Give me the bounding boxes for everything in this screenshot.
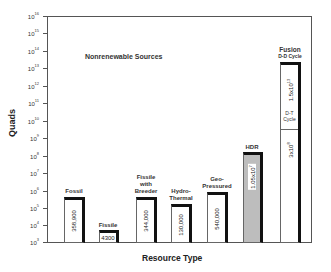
x-axis-label: Resource Type	[142, 253, 202, 263]
category-label-hdr: HDR	[246, 144, 259, 151]
bar-value: 130,000	[178, 214, 184, 236]
ytick: 1013	[0, 68, 47, 78]
bar-value: 1.05x107	[248, 164, 256, 190]
bar-value-dd: 1.5x1013	[286, 79, 294, 101]
ytick: 105	[0, 208, 47, 218]
bar-hydrothermal: 130,000	[171, 204, 192, 243]
ytick: 1016	[0, 16, 47, 26]
ytick: 1012	[0, 86, 47, 96]
category-label-fusion: FusionD-D Cycle	[278, 46, 302, 60]
bar-value: 4300	[101, 235, 114, 241]
category-label-breeder: FissilewithBreeder	[135, 174, 158, 195]
bar-fossil: 358,900	[64, 197, 85, 243]
ytick: 107	[0, 173, 47, 183]
bar-value: 344,000	[143, 210, 149, 232]
bar-fissile: 4300	[99, 230, 119, 243]
ytick: 106	[0, 191, 47, 201]
category-label-hydrothermal: Hydro-Thermal	[169, 188, 192, 202]
bar-value-dt: 3x108	[286, 142, 294, 157]
bar-geopressured: 540,000	[207, 192, 228, 243]
bar-value: 358,900	[71, 210, 77, 232]
ytick: 1015	[0, 33, 47, 43]
bar-value: 540,000	[214, 208, 220, 230]
fusion-divider	[281, 129, 298, 130]
fusion-dt-label: D-TCycle	[281, 110, 298, 122]
ytick: 103	[0, 242, 47, 252]
ytick: 108	[0, 156, 47, 166]
category-label-fissile: Fissile	[99, 222, 118, 229]
category-label-geopressured: Geo-Pressured	[202, 176, 231, 190]
y-axis-label: Quads	[7, 109, 17, 137]
category-label-fossil: Fossil	[65, 188, 82, 195]
chart-title: Nonrenewable Sources	[85, 53, 162, 60]
ytick: 104	[0, 225, 47, 235]
bar-hdr: 1.05x107	[243, 152, 263, 243]
bar-fissile-breeder: 344,000	[136, 197, 157, 243]
ytick: 109	[0, 138, 47, 148]
bar-fusion: 1.5x1013 D-TCycle 3x108	[280, 62, 301, 243]
ytick: 1014	[0, 51, 47, 61]
